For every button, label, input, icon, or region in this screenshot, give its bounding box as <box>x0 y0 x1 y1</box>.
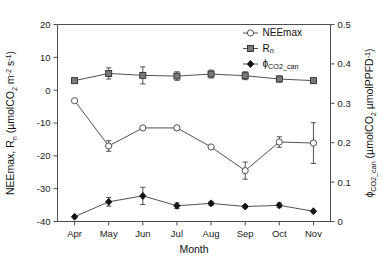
legend-marker-open-circle <box>247 30 253 36</box>
data-point-sep <box>242 168 248 174</box>
data-point-aug <box>208 71 214 77</box>
data-point-apr <box>71 213 77 220</box>
axes-group <box>58 25 331 222</box>
legend-marker-filled-diamond <box>247 61 253 68</box>
x-tick-label-jun: Jun <box>135 228 150 239</box>
legend-item--: ϕCO2_can <box>243 58 298 71</box>
legend-label: NEEmax <box>263 27 302 38</box>
legend-item-r: Rn <box>243 42 274 55</box>
x-tick-label-may: May <box>100 228 118 239</box>
data-point-sep <box>242 203 248 210</box>
x-tick-label-nov: Nov <box>305 228 322 239</box>
y-tick-label-left: 10 <box>40 52 51 63</box>
y-tick-label-right: 0.1 <box>338 177 351 188</box>
y-tick-label-right: 0.2 <box>338 137 351 148</box>
y-tick-label-right: 0.3 <box>338 98 351 109</box>
y-tick-label-left: -20 <box>37 150 51 161</box>
data-point-aug <box>208 200 214 207</box>
chart-legend: NEEmaxRnϕCO2_can <box>243 27 302 71</box>
x-tick-label-sep: Sep <box>237 228 254 239</box>
data-point-may <box>106 143 112 149</box>
series-phico2-can <box>71 187 316 220</box>
y-tick-label-right: 0.5 <box>338 19 351 30</box>
legend-marker-filled-square <box>248 46 254 52</box>
y-tick-label-left: -30 <box>37 183 51 194</box>
data-point-apr <box>71 98 77 104</box>
data-point-jun <box>140 125 146 131</box>
data-point-jun <box>140 192 146 199</box>
data-point-jun <box>140 72 146 78</box>
y-tick-label-left: 0 <box>45 85 50 96</box>
data-point-oct <box>276 76 282 82</box>
data-series-group <box>71 67 316 220</box>
data-point-may <box>105 198 111 205</box>
x-tick-label-jul: Jul <box>171 228 183 239</box>
data-point-jul <box>174 73 180 79</box>
data-point-aug <box>208 144 214 150</box>
y-tick-label-right: 0.4 <box>338 58 351 69</box>
y-tick-label-left: -10 <box>37 117 51 128</box>
axis-titles-group: MonthNEEmax, Rn (µmolCO2 m-2 s-1)ϕCO2_ca… <box>4 48 378 255</box>
data-point-oct <box>276 139 282 145</box>
y-axis-title-left: NEEmax, Rn (µmolCO2 m-2 s-1) <box>4 51 19 195</box>
line-chart: 20100-10-20-30-400.50.40.30.20.10AprMayJ… <box>0 0 383 260</box>
x-tick-label-oct: Oct <box>272 228 287 239</box>
series-neemax <box>71 98 316 180</box>
tick-labels-group: 20100-10-20-30-400.50.40.30.20.10AprMayJ… <box>37 19 351 239</box>
data-point-nov <box>310 78 316 84</box>
x-tick-label-apr: Apr <box>67 228 82 239</box>
y-tick-label-left: 20 <box>40 19 51 30</box>
data-point-may <box>106 70 112 76</box>
y-tick-label-right: 0 <box>338 216 343 227</box>
legend-label: Rn <box>263 42 274 55</box>
data-point-jul <box>174 125 180 131</box>
x-tick-label-aug: Aug <box>203 228 220 239</box>
legend-item-neemax: NEEmax <box>243 27 302 38</box>
data-point-nov <box>310 208 316 215</box>
legend-label: ϕCO2_can <box>263 58 299 71</box>
data-point-sep <box>242 73 248 79</box>
y-tick-label-left: -40 <box>37 216 51 227</box>
data-point-nov <box>310 140 316 146</box>
y-axis-title-right: ϕCO2_can (µmolCO2 µmolPPFD-1) <box>363 48 378 197</box>
ticks-group <box>54 25 335 226</box>
data-point-apr <box>72 78 78 84</box>
x-axis-title: Month <box>179 243 208 255</box>
series-line <box>75 101 314 171</box>
figure-container: 20100-10-20-30-400.50.40.30.20.10AprMayJ… <box>0 0 383 260</box>
